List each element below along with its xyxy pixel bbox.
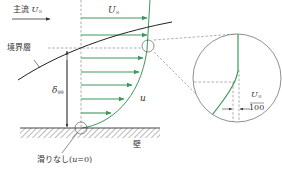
inset-numerator: U∞	[251, 91, 262, 99]
wall-label: 壁	[133, 141, 141, 149]
velocity-arrows	[81, 18, 147, 113]
velocity-u-label: u	[140, 94, 146, 103]
main-flow-label: 主流 U∞	[13, 6, 42, 14]
delta99-label: δ99	[52, 86, 64, 95]
zoom-circle-edge	[142, 40, 154, 52]
wall-hatch	[20, 128, 160, 138]
boundary-layer-label: 境界層	[7, 44, 31, 52]
boundary-layer-diagram: 主流 U∞ U∞ 境界層 δ99 u 壁 滑りなし(u=0) U∞ 100	[0, 0, 282, 174]
free-stream-velocity-label: U∞	[108, 6, 120, 15]
inset-magnifier	[190, 30, 281, 130]
velocity-profile-curve	[82, 0, 150, 128]
boundary-layer-edge	[18, 22, 172, 80]
no-slip-label: 滑りなし(u=0)	[37, 156, 92, 164]
inset-denominator: 100	[249, 104, 264, 112]
